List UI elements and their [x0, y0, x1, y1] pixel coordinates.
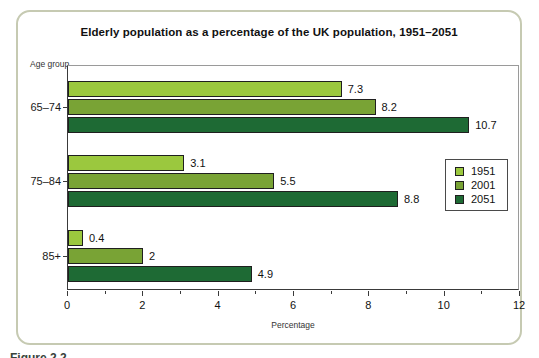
chart-title: Elderly population as a percentage of th…: [18, 26, 520, 38]
x-axis-tick-label: 12: [513, 299, 525, 311]
bar-row: 4.9: [68, 266, 518, 282]
x-axis-major-tick: [142, 291, 143, 296]
bar-row: 10.7: [68, 117, 518, 133]
legend-swatch-icon: [455, 181, 464, 190]
bar-row: 7.3: [68, 81, 518, 97]
legend-entry-2051: 2051: [455, 193, 501, 205]
bar-value-label: 4.9: [258, 268, 273, 280]
bar-value-label: 0.4: [89, 232, 104, 244]
y-axis-title: Age group: [30, 59, 69, 69]
x-axis-major-tick: [218, 291, 219, 296]
legend-entry-2001: 2001: [455, 179, 501, 191]
bar-2051-65–74: [68, 117, 469, 133]
x-axis-minor-tick: [331, 291, 332, 294]
bar-value-label: 3.1: [190, 157, 205, 169]
x-axis-major-tick: [67, 291, 68, 296]
legend-label: 2001: [471, 179, 495, 191]
bar-group-85+: 85+0.424.9: [68, 230, 518, 282]
bar-2051-75–84: [68, 191, 398, 207]
bar-2001-65–74: [68, 99, 376, 115]
bar-group-65–74: 65–747.38.210.7: [68, 81, 518, 133]
legend-entry-1951: 1951: [455, 165, 501, 177]
x-axis-tick-label: 2: [139, 299, 145, 311]
bar-row: 0.4: [68, 230, 518, 246]
bar-value-label: 2: [149, 250, 155, 262]
x-axis-major-tick: [519, 291, 520, 296]
figure-frame: Elderly population as a percentage of th…: [16, 10, 522, 345]
bar-value-label: 8.8: [404, 193, 419, 205]
bar-value-label: 7.3: [348, 83, 363, 95]
legend-swatch-icon: [455, 195, 464, 204]
bar-1951-85+: [68, 230, 83, 246]
legend-label: 1951: [471, 165, 495, 177]
x-axis-title: Percentage: [67, 320, 519, 330]
legend: 195120012051: [445, 159, 508, 211]
bar-2051-85+: [68, 266, 252, 282]
x-axis-major-tick: [444, 291, 445, 296]
x-axis-tick-label: 10: [438, 299, 450, 311]
category-label: 65–74: [30, 101, 61, 113]
bar-1951-65–74: [68, 81, 342, 97]
y-axis-tick: [63, 256, 68, 257]
bar-2001-75–84: [68, 173, 274, 189]
bar-2001-85+: [68, 248, 143, 264]
x-axis-minor-tick: [481, 291, 482, 294]
bar-row: 8.2: [68, 99, 518, 115]
x-axis-major-tick: [293, 291, 294, 296]
x-axis-major-tick: [368, 291, 369, 296]
x-axis-tick-label: 4: [215, 299, 221, 311]
x-axis-minor-tick: [406, 291, 407, 294]
x-axis-minor-tick: [105, 291, 106, 294]
x-axis-tick-label: 0: [64, 299, 70, 311]
x-axis-minor-tick: [180, 291, 181, 294]
bar-value-label: 8.2: [382, 101, 397, 113]
legend-swatch-icon: [455, 167, 464, 176]
y-axis-tick: [63, 181, 68, 182]
legend-label: 2051: [471, 193, 495, 205]
bar-value-label: 5.5: [280, 175, 295, 187]
category-label: 75–84: [30, 175, 61, 187]
x-axis-minor-tick: [255, 291, 256, 294]
bar-value-label: 10.7: [475, 119, 496, 131]
figure-caption: Figure 2.2: [10, 351, 67, 358]
y-axis-tick: [63, 107, 68, 108]
bar-row: 2: [68, 248, 518, 264]
category-label: 85+: [42, 250, 61, 262]
x-axis-tick-label: 6: [290, 299, 296, 311]
x-axis-tick-label: 8: [365, 299, 371, 311]
bar-1951-75–84: [68, 155, 184, 171]
